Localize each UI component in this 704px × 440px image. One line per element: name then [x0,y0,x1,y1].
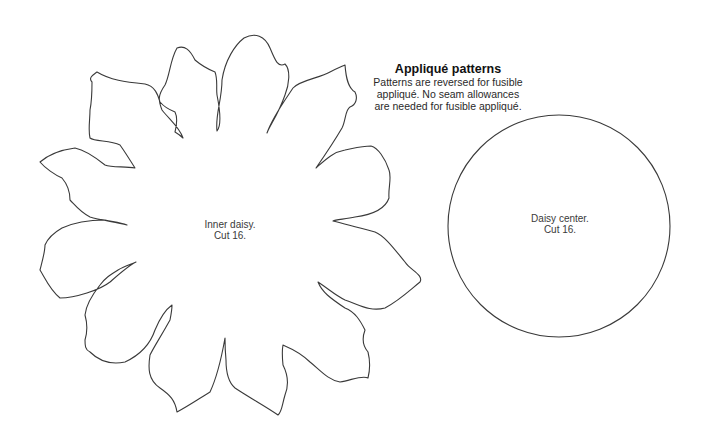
inner-daisy-label: Inner daisy. Cut 16. [190,219,270,241]
instructions-line-2: appliqué. No seam allowances [355,88,541,100]
daisy-center-label: Daisy center. Cut 16. [515,213,605,235]
instructions-line-1: Patterns are reversed for fusible [355,76,541,88]
inner-daisy-cut-count: Cut 16. [190,230,270,241]
daisy-center-name: Daisy center. [515,213,605,224]
pattern-instructions: Appliqué patterns Patterns are reversed … [355,62,541,112]
instructions-title: Appliqué patterns [355,62,541,76]
inner-daisy-name: Inner daisy. [190,219,270,230]
instructions-line-3: are needed for fusible appliqué. [355,100,541,112]
daisy-center-cut-count: Cut 16. [515,224,605,235]
